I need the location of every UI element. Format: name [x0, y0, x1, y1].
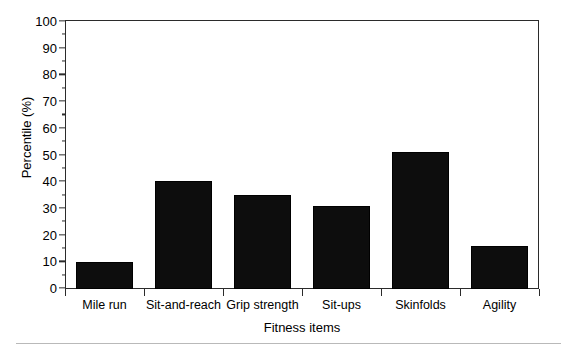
- x-axis-ticks: [65, 289, 539, 296]
- x-tick-label: Skinfolds: [381, 298, 460, 312]
- y-tick-label: 0: [50, 282, 66, 295]
- y-tick-label: 40: [43, 175, 66, 188]
- bar-agility[interactable]: [471, 246, 528, 289]
- bar-sit-and-reach[interactable]: [155, 181, 212, 289]
- x-tick-mark: [381, 289, 382, 296]
- y-tick-label: 60: [43, 121, 66, 134]
- x-axis-title: Fitness items: [65, 320, 539, 335]
- x-tick-mark: [539, 289, 540, 296]
- x-tick-mark: [223, 289, 224, 296]
- x-tick-mark: [65, 289, 66, 296]
- y-tick-label: 70: [43, 95, 66, 108]
- y-tick-label: 100: [35, 15, 66, 28]
- bar-slot: [144, 20, 223, 289]
- bar-chart-figure: Percentile (%) 0102030405060708090100 Mi…: [0, 0, 573, 352]
- bar-slot: [223, 20, 302, 289]
- bars-container: [65, 20, 539, 289]
- y-tick-label: 50: [43, 148, 66, 161]
- x-tick-label: Grip strength: [223, 298, 302, 312]
- x-tick-label: Sit-ups: [302, 298, 381, 312]
- x-tick-mark: [302, 289, 303, 296]
- y-tick-label: 90: [43, 41, 66, 54]
- bar-slot: [460, 20, 539, 289]
- bar-slot: [381, 20, 460, 289]
- x-tick-label: Mile run: [65, 298, 144, 312]
- x-tick-mark: [144, 289, 145, 296]
- y-tick-label: 10: [43, 255, 66, 268]
- bar-skinfolds[interactable]: [392, 152, 449, 289]
- bar-slot: [65, 20, 144, 289]
- bar-slot: [302, 20, 381, 289]
- x-tick-mark: [460, 289, 461, 296]
- x-tick-label: Agility: [460, 298, 539, 312]
- y-tick-label: 30: [43, 201, 66, 214]
- y-axis-title: Percentile (%): [19, 68, 34, 208]
- bar-mile-run[interactable]: [76, 262, 133, 289]
- footer-divider: [16, 343, 561, 344]
- bar-grip-strength[interactable]: [234, 195, 291, 289]
- x-tick-label: Sit-and-reach: [144, 298, 223, 312]
- bar-sit-ups[interactable]: [313, 206, 370, 289]
- x-axis-tick-labels: Mile runSit-and-reachGrip strengthSit-up…: [65, 298, 539, 312]
- y-tick-label: 20: [43, 228, 66, 241]
- y-tick-label: 80: [43, 68, 66, 81]
